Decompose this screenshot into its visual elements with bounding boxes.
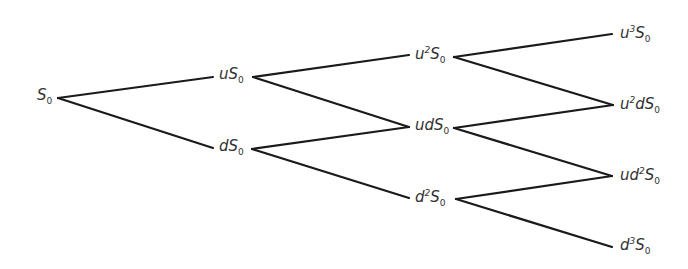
tree-edges — [0, 0, 688, 269]
edge-S0-dS0 — [58, 98, 213, 148]
edge-uS0-u2S0 — [253, 55, 409, 77]
edge-u2S0-u3S0 — [454, 34, 612, 57]
node-uS0: uS0 — [219, 67, 244, 85]
edge-uS0-udS0 — [253, 77, 409, 127]
edge-dS0-udS0 — [252, 127, 409, 149]
node-d2S0: d2S0 — [415, 189, 446, 208]
edge-u2S0-u2dS0 — [454, 57, 613, 105]
edge-udS0-u2dS0 — [454, 105, 613, 128]
edge-S0-uS0 — [58, 77, 213, 98]
node-ud2S0: ud2S0 — [620, 167, 660, 186]
node-u2dS0: u2dS0 — [620, 96, 660, 115]
edge-d2S0-d3S0 — [456, 199, 612, 247]
node-udS0: udS0 — [415, 118, 449, 136]
node-u2S0: u2S0 — [415, 46, 446, 65]
node-S0: S0 — [37, 88, 52, 106]
edge-d2S0-ud2S0 — [456, 176, 612, 199]
edge-udS0-ud2S0 — [454, 128, 612, 176]
node-dS0: dS0 — [219, 139, 244, 157]
edge-dS0-d2S0 — [252, 149, 409, 198]
node-u3S0: u3S0 — [620, 25, 651, 44]
node-d3S0: d3S0 — [620, 237, 651, 256]
